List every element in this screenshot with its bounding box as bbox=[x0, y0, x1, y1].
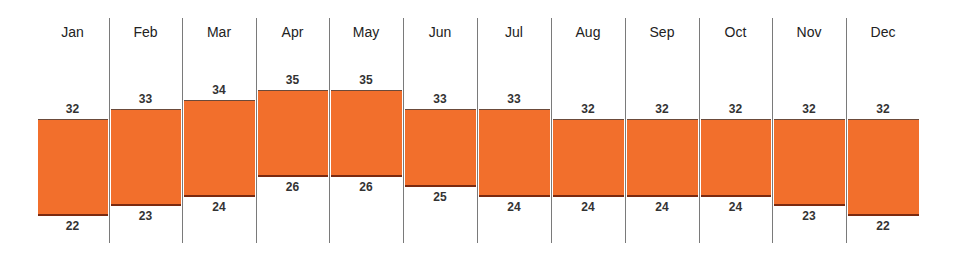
high-value-label: 35 bbox=[329, 73, 403, 87]
high-value-label: 32 bbox=[551, 102, 625, 116]
low-value-label: 25 bbox=[403, 190, 477, 204]
low-value-label: 24 bbox=[699, 200, 772, 214]
column-divider bbox=[403, 18, 404, 243]
high-value-label: 32 bbox=[772, 102, 846, 116]
range-bar bbox=[553, 119, 624, 197]
range-bar bbox=[184, 100, 255, 197]
low-value-label: 24 bbox=[625, 200, 699, 214]
month-label: Dec bbox=[846, 24, 920, 40]
high-value-label: 33 bbox=[403, 92, 477, 106]
high-value-label: 33 bbox=[109, 92, 182, 106]
low-value-label: 22 bbox=[846, 219, 920, 233]
month-label: Nov bbox=[772, 24, 846, 40]
high-value-label: 35 bbox=[256, 73, 329, 87]
low-value-label: 22 bbox=[36, 219, 109, 233]
high-value-label: 34 bbox=[182, 83, 256, 97]
column-divider bbox=[256, 18, 257, 243]
low-value-label: 24 bbox=[551, 200, 625, 214]
range-bar bbox=[331, 90, 402, 177]
column-divider bbox=[846, 18, 847, 243]
month-label: May bbox=[329, 24, 403, 40]
high-value-label: 32 bbox=[36, 102, 109, 116]
month-label: Jan bbox=[36, 24, 109, 40]
range-bar bbox=[479, 109, 550, 196]
month-label: Apr bbox=[256, 24, 329, 40]
month-label: Jul bbox=[477, 24, 551, 40]
month-label: Jun bbox=[403, 24, 477, 40]
range-bar bbox=[38, 119, 108, 216]
range-bar bbox=[111, 109, 181, 206]
range-bar bbox=[848, 119, 919, 216]
high-value-label: 32 bbox=[625, 102, 699, 116]
range-bar bbox=[701, 119, 771, 197]
low-value-label: 26 bbox=[329, 180, 403, 194]
range-bar bbox=[258, 90, 328, 177]
temperature-range-chart: Jan3222Feb3323Mar3424Apr3526May3526Jun33… bbox=[0, 0, 953, 253]
high-value-label: 32 bbox=[699, 102, 772, 116]
column-divider bbox=[329, 18, 330, 243]
low-value-label: 23 bbox=[772, 209, 846, 223]
low-value-label: 24 bbox=[182, 200, 256, 214]
range-bar bbox=[405, 109, 476, 187]
range-bar bbox=[627, 119, 698, 197]
month-label: Aug bbox=[551, 24, 625, 40]
low-value-label: 23 bbox=[109, 209, 182, 223]
high-value-label: 33 bbox=[477, 92, 551, 106]
high-value-label: 32 bbox=[846, 102, 920, 116]
low-value-label: 24 bbox=[477, 200, 551, 214]
low-value-label: 26 bbox=[256, 180, 329, 194]
range-bar bbox=[774, 119, 845, 206]
month-label: Oct bbox=[699, 24, 772, 40]
month-label: Feb bbox=[109, 24, 182, 40]
month-label: Sep bbox=[625, 24, 699, 40]
month-label: Mar bbox=[182, 24, 256, 40]
